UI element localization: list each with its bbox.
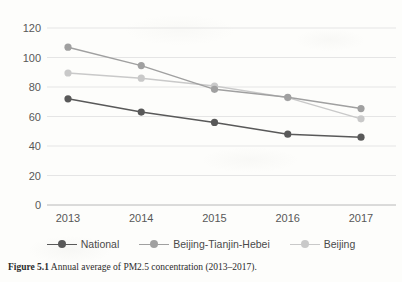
chart-legend: NationalBeijing-Tianjin-HebeiBeijing xyxy=(0,232,402,256)
pm25-line-chart: 020406080100120 20132014201520162017 xyxy=(0,0,402,232)
series-line xyxy=(68,73,361,119)
chart-plot-area: 020406080100120 20132014201520162017 xyxy=(0,0,402,232)
x-axis-tick-label: 2013 xyxy=(56,212,80,224)
legend-item[interactable]: Beijing xyxy=(290,238,356,250)
legend-label: Beijing-Tianjin-Hebei xyxy=(173,238,270,250)
y-axis-tick-label: 120 xyxy=(23,22,41,34)
data-point xyxy=(64,69,71,76)
data-point xyxy=(211,119,218,126)
data-point xyxy=(138,75,145,82)
data-point xyxy=(357,105,364,112)
series-beijing-tianjin-hebei xyxy=(64,44,364,113)
x-axis-tick-label: 2017 xyxy=(349,212,373,224)
legend-dot xyxy=(58,240,66,248)
data-point xyxy=(357,115,364,122)
legend-dot xyxy=(301,240,309,248)
caption-text: Annual average of PM2.5 concentration (2… xyxy=(51,262,257,272)
y-axis-tick-label: 20 xyxy=(29,170,41,182)
legend-marker-icon xyxy=(290,239,320,250)
caption-label: Figure 5.1 xyxy=(8,262,49,272)
legend-item[interactable]: Beijing-Tianjin-Hebei xyxy=(139,238,270,250)
series-beijing xyxy=(64,69,364,122)
legend-item[interactable]: National xyxy=(47,238,120,250)
legend-label: Beijing xyxy=(324,238,356,250)
y-axis-tick-label: 40 xyxy=(29,140,41,152)
x-axis-tick-label: 2014 xyxy=(129,212,153,224)
legend-marker-icon xyxy=(139,239,169,250)
data-point xyxy=(138,62,145,69)
y-axis-tick-labels: 020406080100120 xyxy=(23,22,41,211)
figure-caption: Figure 5.1 Annual average of PM2.5 conce… xyxy=(8,262,398,272)
series-line xyxy=(68,47,361,108)
data-series-group xyxy=(64,44,364,141)
series-line xyxy=(68,99,361,137)
y-axis-tick-label: 80 xyxy=(29,81,41,93)
data-point xyxy=(64,44,71,51)
legend-dot xyxy=(150,240,158,248)
x-axis-tick-label: 2016 xyxy=(276,212,300,224)
x-axis-tick-label: 2015 xyxy=(202,212,226,224)
data-point xyxy=(211,86,218,93)
y-axis-tick-label: 0 xyxy=(35,199,41,211)
data-point xyxy=(64,95,71,102)
x-axis-tick-labels: 20132014201520162017 xyxy=(56,212,373,224)
data-point xyxy=(357,134,364,141)
legend-marker-icon xyxy=(47,239,77,250)
y-axis-tick-label: 60 xyxy=(29,111,41,123)
data-point xyxy=(138,108,145,115)
y-axis-tick-label: 100 xyxy=(23,52,41,64)
data-point xyxy=(284,131,291,138)
figure-container: 020406080100120 20132014201520162017 Nat… xyxy=(0,0,402,282)
legend-label: National xyxy=(81,238,120,250)
data-point xyxy=(284,94,291,101)
